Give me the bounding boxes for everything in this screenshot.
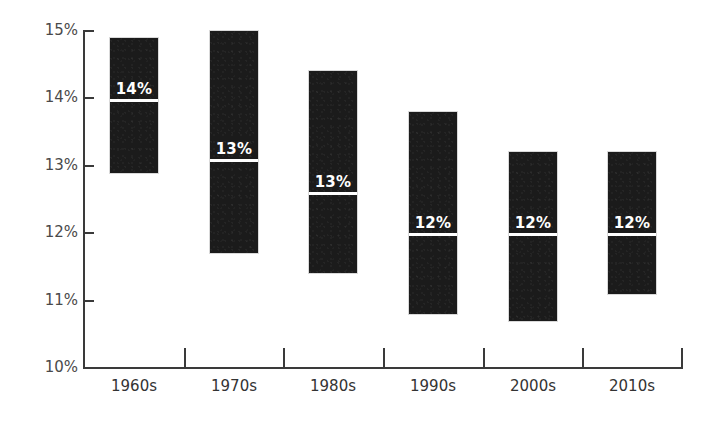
- chart-container: 10%11%12%13%14%15% 14%13%13%12%12%12% 19…: [0, 0, 706, 422]
- bar-value-label: 13%: [309, 175, 357, 190]
- bar-value-marker: [210, 159, 258, 162]
- bar-value-marker: [608, 233, 656, 236]
- x-axis-tick: [483, 348, 485, 368]
- y-axis-tick-label: 15%: [4, 23, 78, 38]
- x-axis-right-cap: [681, 348, 683, 369]
- x-axis-tick: [184, 348, 186, 368]
- y-axis-tick-label: 13%: [4, 158, 78, 173]
- bar-value-marker: [309, 192, 357, 195]
- x-axis-tick: [283, 348, 285, 368]
- y-axis-tick: [85, 367, 94, 369]
- range-bar: 12%: [409, 112, 457, 314]
- y-axis-tick-label: 12%: [4, 225, 78, 240]
- x-axis-category-label: 1970s: [184, 378, 284, 395]
- x-axis-category-label: 2000s: [483, 378, 583, 395]
- bar-value-marker: [509, 233, 557, 236]
- y-axis-tick-label: 11%: [4, 293, 78, 308]
- range-bar: 12%: [608, 152, 656, 294]
- y-axis-tick: [85, 300, 94, 302]
- x-axis-category-label: 2010s: [582, 378, 682, 395]
- y-axis-tick-label: 10%: [4, 360, 78, 375]
- bar-value-label: 12%: [409, 216, 457, 231]
- x-axis-tick: [582, 348, 584, 368]
- range-bar: 12%: [509, 152, 557, 321]
- range-bar: 13%: [309, 71, 357, 273]
- y-axis-tick: [85, 30, 94, 32]
- bar-value-label: 13%: [210, 142, 258, 157]
- bar-value-marker: [409, 233, 457, 236]
- bar-value-label: 12%: [608, 216, 656, 231]
- y-axis-tick: [85, 165, 94, 167]
- y-axis-line: [83, 30, 85, 369]
- range-bar: 14%: [110, 38, 158, 173]
- bar-value-label: 12%: [509, 216, 557, 231]
- x-axis-category-label: 1990s: [383, 378, 483, 395]
- y-axis-tick-label: 14%: [4, 90, 78, 105]
- bar-value-marker: [110, 99, 158, 102]
- range-bar: 13%: [210, 31, 258, 253]
- x-axis-tick: [383, 348, 385, 368]
- x-axis-category-label: 1960s: [84, 378, 184, 395]
- x-axis-category-label: 1980s: [283, 378, 383, 395]
- y-axis-tick: [85, 97, 94, 99]
- bar-value-label: 14%: [110, 82, 158, 97]
- y-axis-tick: [85, 232, 94, 234]
